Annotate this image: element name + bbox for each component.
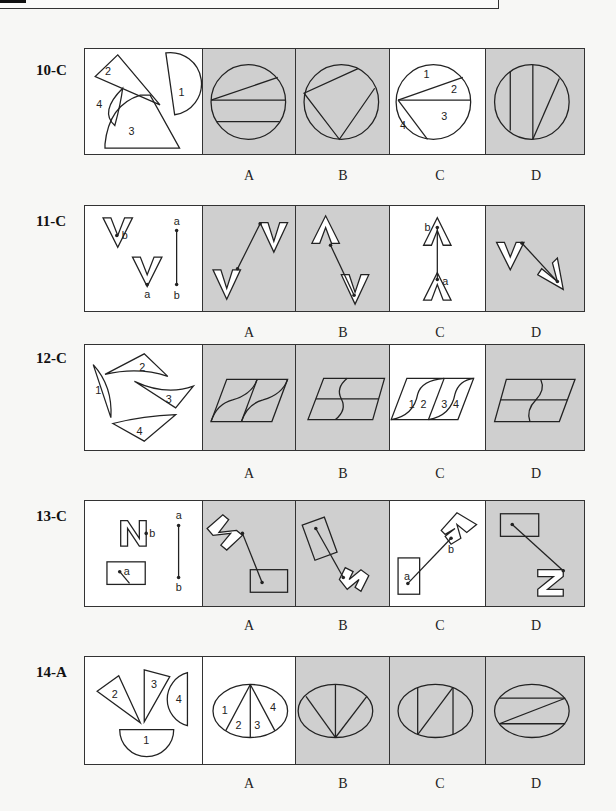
question-panel: b a a b xyxy=(85,206,203,311)
option-d-label: D xyxy=(526,776,546,792)
svg-text:3: 3 xyxy=(151,678,157,690)
option-b-label: B xyxy=(333,466,353,482)
question-panel: 1 2 3 4 xyxy=(85,345,203,450)
option-a-panel[interactable] xyxy=(203,345,297,450)
option-b-panel[interactable] xyxy=(296,501,390,606)
option-d-panel[interactable] xyxy=(486,49,584,154)
problem-id: 12-C xyxy=(36,350,67,367)
circle-pieces-figure: 2 1 3 4 xyxy=(85,49,202,154)
problem-id: 11-C xyxy=(36,213,66,230)
option-c-panel[interactable]: b a xyxy=(390,206,487,311)
option-b-label: B xyxy=(333,618,353,634)
svg-text:a: a xyxy=(144,288,150,300)
figure-strip: b a a b xyxy=(84,500,585,607)
option-b-panel[interactable] xyxy=(296,345,390,450)
question-panel: 2 1 3 4 xyxy=(85,49,203,154)
option-a-label: A xyxy=(239,466,259,482)
option-d-panel[interactable] xyxy=(486,206,584,311)
figure-strip: 2 3 4 1 1 2 3 4 xyxy=(84,656,585,765)
option-d-label: D xyxy=(526,325,546,341)
option-c-label: C xyxy=(430,618,450,634)
svg-text:3: 3 xyxy=(166,393,172,405)
option-c-panel[interactable]: 1 2 3 4 xyxy=(390,49,487,154)
option-b-label: B xyxy=(333,168,353,184)
option-d-label: D xyxy=(526,618,546,634)
option-c-label: C xyxy=(430,466,450,482)
option-c-panel[interactable] xyxy=(390,657,487,764)
option-b-panel[interactable] xyxy=(296,206,390,311)
figure-strip: b a a b xyxy=(84,205,585,312)
option-a-label: A xyxy=(239,776,259,792)
svg-text:b: b xyxy=(448,543,454,555)
option-a-panel[interactable] xyxy=(203,49,297,154)
svg-text:4: 4 xyxy=(453,398,459,410)
figure-strip: 2 1 3 4 xyxy=(84,48,585,155)
question-panel: b a a b xyxy=(85,501,203,606)
option-d-panel[interactable] xyxy=(486,345,584,450)
svg-text:2: 2 xyxy=(451,83,457,95)
svg-text:2: 2 xyxy=(112,688,118,700)
previous-section-frame xyxy=(0,0,499,9)
svg-text:3: 3 xyxy=(254,719,260,731)
svg-text:4: 4 xyxy=(269,701,275,713)
option-c-panel[interactable]: a b xyxy=(390,501,487,606)
svg-text:b: b xyxy=(424,221,430,233)
option-c-label: C xyxy=(430,325,450,341)
option-a-panel[interactable] xyxy=(203,206,297,311)
option-b-panel[interactable] xyxy=(296,657,390,764)
svg-text:4: 4 xyxy=(400,119,406,131)
svg-text:b: b xyxy=(174,289,180,301)
svg-text:b: b xyxy=(149,527,155,539)
svg-text:a: a xyxy=(442,275,448,287)
svg-text:b: b xyxy=(176,581,182,593)
svg-text:3: 3 xyxy=(441,398,447,410)
option-a-label: A xyxy=(239,325,259,341)
option-a-panel[interactable]: 1 2 3 4 xyxy=(203,657,297,764)
svg-text:a: a xyxy=(124,565,130,577)
svg-text:3: 3 xyxy=(441,110,447,122)
option-a-panel[interactable] xyxy=(203,501,297,606)
svg-text:2: 2 xyxy=(139,361,145,373)
svg-text:1: 1 xyxy=(221,704,227,716)
option-d-panel[interactable] xyxy=(486,657,584,764)
option-b-panel[interactable] xyxy=(296,49,390,154)
option-c-label: C xyxy=(430,776,450,792)
problem-id: 10-C xyxy=(36,62,67,79)
option-c-label: C xyxy=(430,168,450,184)
section-marker xyxy=(0,0,26,3)
question-panel: 2 3 4 1 xyxy=(85,657,203,764)
svg-text:a: a xyxy=(174,215,180,227)
svg-text:1: 1 xyxy=(143,734,149,746)
option-b-label: B xyxy=(333,325,353,341)
svg-text:1: 1 xyxy=(423,68,429,80)
svg-text:1: 1 xyxy=(409,398,415,410)
option-d-label: D xyxy=(526,168,546,184)
svg-text:3: 3 xyxy=(129,125,135,137)
svg-text:2: 2 xyxy=(105,65,111,77)
svg-text:2: 2 xyxy=(420,398,426,410)
svg-text:4: 4 xyxy=(96,98,102,110)
option-d-panel[interactable] xyxy=(486,501,584,606)
option-a-label: A xyxy=(239,168,259,184)
figure-strip: 1 2 3 4 xyxy=(84,344,585,451)
svg-text:4: 4 xyxy=(136,425,142,437)
svg-text:2: 2 xyxy=(235,719,241,731)
svg-text:1: 1 xyxy=(95,384,101,396)
svg-text:a: a xyxy=(404,570,410,582)
option-c-panel[interactable]: 1 2 3 4 xyxy=(390,345,487,450)
option-b-label: B xyxy=(333,776,353,792)
svg-text:1: 1 xyxy=(179,86,185,98)
svg-text:a: a xyxy=(176,509,182,521)
problem-id: 13-C xyxy=(36,508,67,525)
option-a-label: A xyxy=(239,618,259,634)
problem-id: 14-A xyxy=(36,664,67,681)
option-d-label: D xyxy=(526,466,546,482)
svg-text:b: b xyxy=(122,229,128,241)
svg-text:4: 4 xyxy=(176,693,182,705)
